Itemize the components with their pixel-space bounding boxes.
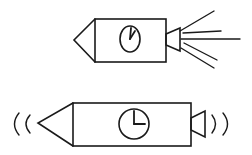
- clock-icon: [119, 109, 149, 139]
- diagram-svg: [0, 0, 252, 155]
- rocket-bottom-nose: [38, 103, 73, 146]
- exhaust-lines: [180, 11, 240, 68]
- rocket-bottom-nozzle: [191, 111, 205, 137]
- sound-waves-right: [212, 113, 228, 135]
- rocket-bottom: [15, 103, 228, 146]
- diagram-canvas: [0, 0, 252, 155]
- rocket-top: [74, 11, 240, 68]
- rocket-top-nozzle: [166, 28, 180, 51]
- sound-waves-left: [15, 113, 31, 135]
- rocket-top-nose: [74, 19, 95, 62]
- clock-icon: [120, 26, 140, 52]
